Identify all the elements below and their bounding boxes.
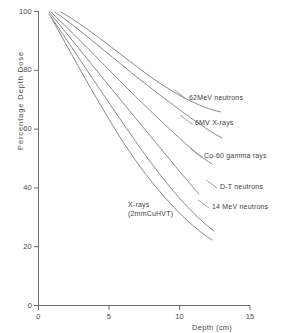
depth-dose-chart: 100 80 60 40 20 0 0 5 10 15 Depth (cm) P… bbox=[0, 0, 295, 333]
y-axis-ticks bbox=[34, 12, 39, 306]
leader-62mev bbox=[175, 90, 186, 99]
series-label-62mev-neutrons: 62MeV neutrons bbox=[189, 94, 243, 103]
x-axis-title: Depth (cm) bbox=[192, 323, 232, 332]
x-tick-label-10: 10 bbox=[175, 313, 184, 321]
y-axis-title: Percentage Depth Dose bbox=[16, 51, 25, 150]
leader-14mev bbox=[198, 200, 209, 208]
curve-dt-neutrons bbox=[49, 12, 199, 194]
series-label-dt-neutrons: D-T neutrons bbox=[220, 183, 263, 192]
series-label-6mv-xrays: 6MV X-rays bbox=[195, 119, 234, 128]
series-label-co60-gamma-rays: Co-60 gamma rays bbox=[204, 152, 267, 161]
x-tick-label-0: 0 bbox=[36, 313, 40, 321]
leader-dt bbox=[206, 180, 217, 188]
chart-canvas bbox=[0, 0, 295, 333]
x-tick-label-5: 5 bbox=[107, 313, 111, 321]
curve-14mev-neutrons bbox=[49, 14, 214, 231]
x-axis-ticks bbox=[39, 306, 251, 311]
series-label-14mev-neutrons: 14 MeV neutrons bbox=[212, 203, 268, 212]
y-tick-label-0: 0 bbox=[8, 302, 32, 310]
series-label-xrays-2mmcuhvt: X-rays (2mmCuHVT) bbox=[128, 201, 173, 219]
series-label-xrays-line2: (2mmCuHVT) bbox=[128, 210, 173, 219]
curve-co60-gamma-rays bbox=[51, 12, 212, 164]
y-tick-label-20: 20 bbox=[8, 243, 32, 251]
y-tick-label-40: 40 bbox=[8, 184, 32, 192]
series-label-xrays-line1: X-rays bbox=[128, 201, 149, 208]
leader-co60 bbox=[190, 148, 201, 157]
leader-6mv bbox=[180, 115, 192, 124]
y-tick-label-100: 100 bbox=[8, 8, 32, 16]
x-tick-label-15: 15 bbox=[246, 313, 255, 321]
